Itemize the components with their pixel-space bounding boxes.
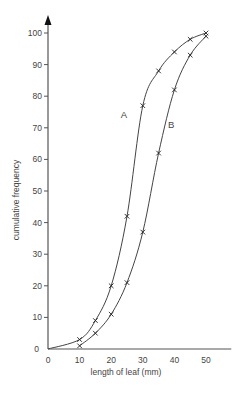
curves [48,33,206,349]
x-tick-label: 10 [75,355,85,365]
y-axis-label: cumulative frequency [11,159,21,240]
ticks: 010203040506070809010001020304050 [28,28,211,365]
y-tick-label: 90 [33,60,43,70]
cross-marker-icon [93,318,98,323]
curve-a [48,33,206,349]
cross-marker-icon [93,331,98,336]
y-tick-label: 60 [33,154,43,164]
y-tick-label: 80 [33,91,43,101]
cumulative-frequency-chart: 010203040506070809010001020304050 AB len… [0,0,252,393]
x-tick-label: 40 [170,355,180,365]
y-tick-label: 40 [33,218,43,228]
curve-label-a: A [121,109,128,120]
y-tick-label: 10 [33,312,43,322]
cross-marker-icon [77,337,82,342]
axes [45,15,232,349]
cross-marker-icon [77,344,82,349]
cross-marker-icon [188,37,193,42]
curve-b [80,36,206,346]
x-axis-label: length of leaf (mm) [91,367,162,377]
y-tick-label: 0 [34,344,39,354]
cross-marker-icon [125,280,130,285]
cross-marker-icon [109,312,114,317]
cross-marker-icon [204,34,209,39]
y-axis-arrow-icon [45,15,52,25]
x-tick-label: 50 [201,355,211,365]
x-tick-label: 30 [138,355,148,365]
cross-marker-icon [172,50,177,55]
y-tick-label: 50 [33,186,43,196]
x-tick-label: 0 [46,355,51,365]
y-tick-label: 100 [28,28,42,38]
curve-label-b: B [168,119,174,130]
x-tick-label: 20 [106,355,116,365]
y-tick-label: 20 [33,281,43,291]
y-tick-label: 70 [33,123,43,133]
cross-marker-icon [188,53,193,58]
cross-marker-icon [156,69,161,74]
markers [77,31,208,348]
y-tick-label: 30 [33,249,43,259]
